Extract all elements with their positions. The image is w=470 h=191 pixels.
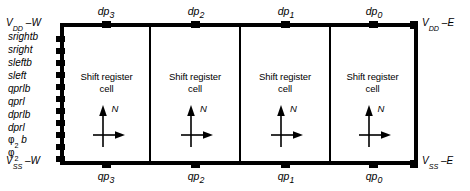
cell-label: Shift register cell — [64, 71, 149, 95]
rail-suffix: –E — [438, 155, 453, 166]
rail-suffix: –W — [22, 155, 40, 166]
pad-left-qprlb — [56, 84, 65, 90]
bottom-port-label-qp0: qp0 — [366, 170, 383, 185]
orientation-label-north: N — [290, 103, 297, 114]
signal-label-phi2b: φ2 b — [8, 134, 27, 148]
top-port-label-dp0: dp0 — [366, 5, 383, 20]
rail-subscript: DD — [429, 24, 439, 33]
port-base: qp — [98, 170, 110, 182]
orientation-axis-marker: N — [269, 103, 313, 151]
shift-register-cell-2: Shift register cell N — [151, 23, 239, 165]
signal-label-sleftb: sleftb — [8, 57, 32, 68]
signal-subscript: 2 — [14, 154, 18, 163]
rail-base: V — [422, 155, 429, 166]
signal-name: sleftb — [8, 57, 32, 68]
pad-left-sright — [56, 48, 65, 54]
signal-label-qprl: qprl — [8, 96, 25, 107]
signal-label-sright: sright — [8, 44, 32, 55]
signal-name: qprl — [8, 96, 25, 107]
port-base: qp — [366, 170, 378, 182]
port-subscript: 1 — [289, 10, 294, 20]
port-base: dp — [188, 5, 200, 17]
cell-label-line2: cell — [188, 83, 202, 94]
pad-top-dp0 — [369, 21, 378, 28]
cell-label-line2: cell — [278, 83, 292, 94]
rail-base: V — [422, 17, 429, 28]
pad-left-dprl — [56, 120, 65, 126]
port-subscript: 0 — [377, 10, 382, 20]
orientation-label-north: N — [200, 103, 207, 114]
cell-label: Shift register cell — [331, 71, 414, 95]
shift-register-floorplan-diagram: Shift register cell N Shift register cel… — [0, 0, 470, 191]
signal-suffix: b — [18, 134, 26, 145]
top-port-label-dp1: dp1 — [278, 5, 295, 20]
pad-left-sleftb — [56, 60, 65, 66]
power-label-vdd-east: VDD –E — [422, 17, 454, 31]
cell-label: Shift register cell — [151, 71, 239, 95]
cell-label: Shift register cell — [241, 71, 329, 95]
port-subscript: 3 — [109, 175, 114, 185]
pad-top-dp2 — [191, 21, 200, 28]
shift-register-cell-1: Shift register cell N — [241, 23, 329, 165]
port-subscript: 0 — [377, 175, 382, 185]
pad-bottom-qp1 — [281, 161, 290, 168]
port-base: qp — [278, 170, 290, 182]
rail-subscript: SS — [429, 162, 439, 171]
signal-name: srightb — [8, 31, 38, 42]
pad-bottom-qp3 — [102, 161, 111, 168]
signal-name: qprlb — [8, 83, 30, 94]
orientation-axis-marker: N — [179, 103, 223, 151]
signal-label-sleft: sleft — [8, 70, 26, 81]
cell-label-line2: cell — [100, 83, 114, 94]
pad-left-phi2b — [56, 132, 65, 138]
rail-base: V — [6, 17, 13, 28]
orientation-axis-marker: N — [91, 103, 135, 151]
port-base: qp — [188, 170, 200, 182]
pad-bottom-qp2 — [191, 161, 200, 168]
signal-label-dprlb: dprlb — [8, 109, 30, 120]
pad-left-extra — [56, 156, 65, 162]
pad-left-qprl — [56, 96, 65, 102]
bottom-port-label-qp2: qp2 — [188, 170, 205, 185]
signal-label-phi2: φ2 — [8, 147, 18, 161]
bottom-port-label-qp3: qp3 — [98, 170, 115, 185]
rail-suffix: –E — [439, 17, 454, 28]
signal-name: sleft — [8, 70, 26, 81]
shift-register-cell-0: Shift register cell N — [331, 23, 414, 165]
pad-top-dp3 — [102, 21, 111, 28]
cell-label-line2: cell — [366, 83, 380, 94]
rail-suffix: –W — [23, 17, 41, 28]
cell-label-line1: Shift register — [169, 71, 221, 82]
signal-label-dprl: dprl — [8, 122, 25, 133]
pad-corner-vdd-east — [410, 21, 418, 29]
orientation-axis-marker: N — [357, 103, 401, 151]
port-base: dp — [278, 5, 290, 17]
bottom-port-label-qp1: qp1 — [278, 170, 295, 185]
orientation-label-north: N — [378, 103, 385, 114]
cell-label-line1: Shift register — [347, 71, 399, 82]
signal-name: dprl — [8, 122, 25, 133]
port-subscript: 1 — [289, 175, 294, 185]
top-port-label-dp3: dp3 — [98, 5, 115, 20]
signal-name: sright — [8, 44, 32, 55]
pad-left-sleft — [56, 72, 65, 78]
pad-left-srightb — [56, 36, 65, 42]
power-label-vdd-west: VDD –W — [6, 17, 41, 31]
top-port-label-dp2: dp2 — [188, 5, 205, 20]
orientation-label-north: N — [112, 103, 119, 114]
rail-subscript: SS — [13, 162, 23, 171]
signal-label-qprlb: qprlb — [8, 83, 30, 94]
port-base: dp — [98, 5, 110, 17]
pad-left-dprlb — [56, 108, 65, 114]
signal-name: dprlb — [8, 109, 30, 120]
pad-top-dp1 — [281, 21, 290, 28]
cell-label-line1: Shift register — [81, 71, 133, 82]
pad-left-phi2 — [56, 144, 65, 150]
pad-bottom-qp0 — [369, 161, 378, 168]
pad-corner-vss-east — [410, 160, 418, 168]
shift-register-cell-3: Shift register cell N — [64, 23, 149, 165]
port-subscript: 2 — [199, 10, 204, 20]
port-subscript: 3 — [109, 10, 114, 20]
cell-label-line1: Shift register — [259, 71, 311, 82]
port-subscript: 2 — [199, 175, 204, 185]
